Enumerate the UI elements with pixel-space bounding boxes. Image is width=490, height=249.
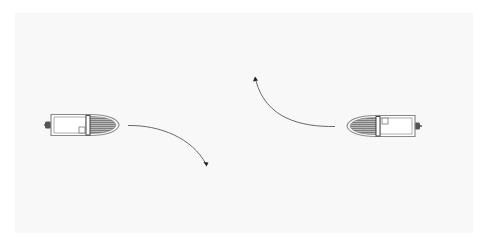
right-boat-path xyxy=(253,77,335,127)
boat-diagram xyxy=(0,0,490,249)
arrowhead-icon xyxy=(204,162,209,167)
windshield xyxy=(86,116,90,136)
left-boat-path xyxy=(128,125,209,166)
seat-icon xyxy=(382,118,388,124)
windshield xyxy=(376,117,380,137)
right-boat xyxy=(347,116,422,137)
seat-icon xyxy=(79,127,85,133)
arrowhead-icon xyxy=(253,77,258,82)
left-boat xyxy=(44,115,119,136)
